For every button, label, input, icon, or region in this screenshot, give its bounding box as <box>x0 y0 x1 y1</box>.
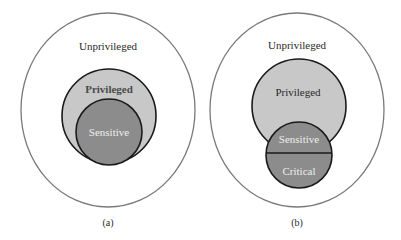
unprivileged-label-a: Unprivileged <box>79 40 138 52</box>
privileged-label-a: Privileged <box>85 83 133 95</box>
diagram-a: Unprivileged Privileged Sensitive (a) <box>21 13 195 229</box>
sensitive-label-a: Sensitive <box>89 126 129 138</box>
privilege-diagram: Unprivileged Privileged Sensitive (a) Un… <box>0 0 401 240</box>
sensitive-label-b: Sensitive <box>279 133 319 145</box>
critical-label-b: Critical <box>283 165 316 177</box>
caption-b: (b) <box>291 217 303 229</box>
unprivileged-label-b: Unprivileged <box>268 39 327 51</box>
diagram-b: Unprivileged Privileged Sensitive Critic… <box>210 13 384 229</box>
privileged-label-b: Privileged <box>275 86 321 98</box>
sensitive-critical-region-b <box>266 122 332 188</box>
caption-a: (a) <box>102 217 113 229</box>
